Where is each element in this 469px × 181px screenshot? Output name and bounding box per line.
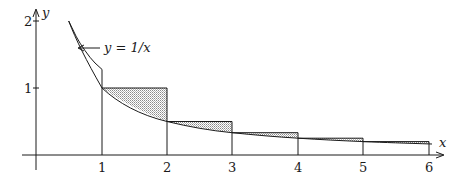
x-tick-label-3: 3 [228, 160, 236, 175]
x-tick-label-4: 4 [294, 160, 302, 175]
y-tick-label-1: 1 [24, 81, 32, 96]
x-axis-label: x [439, 135, 447, 150]
shaded-region-2 [167, 122, 232, 133]
x-tick-label-5: 5 [359, 160, 367, 175]
curve-label: y = 1/x [103, 40, 151, 55]
x-tick-label-6: 6 [425, 160, 433, 175]
x-tick-label-2: 2 [163, 160, 171, 175]
y-tick-label-2: 2 [24, 14, 32, 29]
harmonic-sum-diagram: 1 2 1 2 3 4 5 6 y x y = 1/x [0, 0, 469, 181]
y-axis-label: y [41, 5, 50, 20]
x-tick-label-1: 1 [98, 160, 106, 175]
shaded-region-1 [102, 88, 167, 122]
